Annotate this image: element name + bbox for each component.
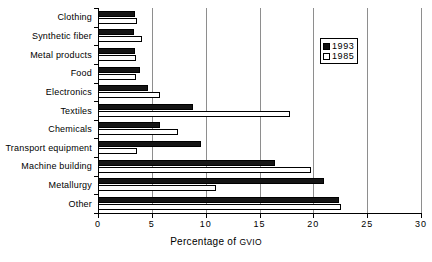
- category-label: Clothing: [0, 12, 92, 22]
- category-label: Chemicals: [0, 124, 92, 134]
- category-label: Textiles: [0, 106, 92, 116]
- bar-chart: Clothing Synthetic fiber Metal products …: [0, 0, 432, 262]
- x-axis-tick-30: [421, 214, 422, 218]
- x-axis-tick-20: [313, 214, 314, 218]
- bar-1985: [98, 18, 137, 24]
- category-label: Food: [0, 68, 92, 78]
- bar-1985: [98, 92, 160, 98]
- bar-1985: [98, 129, 178, 135]
- bar-group: [98, 138, 421, 157]
- x-axis-title-acronym: GVIO: [239, 237, 261, 247]
- category-label: Synthetic fiber: [0, 31, 92, 41]
- bar-1993: [98, 29, 134, 35]
- bar-1985: [98, 55, 136, 61]
- bar-1985: [98, 204, 341, 210]
- bar-1985: [98, 148, 137, 154]
- x-axis-tick-label: 0: [95, 219, 101, 230]
- x-axis-tick-label: 25: [361, 219, 373, 230]
- bar-1985: [98, 74, 136, 80]
- category-label: Metal products: [0, 50, 92, 60]
- bar-group: [98, 45, 421, 64]
- bar-1985: [98, 167, 311, 173]
- x-axis-title-main: Percentage of: [170, 236, 239, 247]
- legend-label: 1993: [332, 41, 354, 51]
- x-axis-tick-label: 30: [415, 219, 427, 230]
- legend-swatch-filled-square-icon: [323, 43, 330, 50]
- bar-rows: [98, 8, 421, 213]
- x-axis-tick-0: [98, 214, 99, 218]
- bar-1993: [98, 141, 201, 147]
- bar-1985: [98, 185, 216, 191]
- legend-swatch-hollow-square-icon: [323, 53, 330, 60]
- legend: 1993 1985: [320, 38, 358, 64]
- bar-1985: [98, 111, 290, 117]
- x-axis-tick-25: [367, 214, 368, 218]
- bar-group: [98, 83, 421, 102]
- category-label: Metallurgy: [0, 180, 92, 190]
- bar-group: [98, 8, 421, 27]
- bar-group: [98, 120, 421, 139]
- gridline-30: [421, 8, 422, 213]
- bar-1993: [98, 160, 275, 166]
- bar-group: [98, 64, 421, 83]
- bar-group: [98, 27, 421, 46]
- bar-1985: [98, 36, 142, 42]
- x-axis-tick-15: [260, 214, 261, 218]
- bar-1993: [98, 11, 135, 17]
- legend-label: 1985: [332, 51, 354, 61]
- category-label: Machine building: [0, 161, 92, 171]
- x-axis-tick-5: [152, 214, 153, 218]
- bar-1993: [98, 104, 193, 110]
- bar-group: [98, 194, 421, 213]
- x-axis-tick-label: 15: [253, 219, 265, 230]
- y-axis-labels: Clothing Synthetic fiber Metal products …: [0, 8, 94, 213]
- legend-entry-1993: 1993: [323, 41, 354, 51]
- x-axis-tick-label: 10: [200, 219, 212, 230]
- bar-1993: [98, 178, 324, 184]
- bar-1993: [98, 85, 148, 91]
- legend-entry-1985: 1985: [323, 51, 354, 61]
- bar-group: [98, 157, 421, 176]
- x-axis-title: Percentage of GVIO: [0, 236, 432, 247]
- bar-group: [98, 101, 421, 120]
- bar-1993: [98, 48, 135, 54]
- bar-1993: [98, 122, 160, 128]
- x-axis-tick-label: 5: [149, 219, 155, 230]
- x-axis-tick-10: [206, 214, 207, 218]
- category-label: Transport equipment: [0, 143, 92, 153]
- plot-area: [98, 8, 421, 213]
- category-label: Electronics: [0, 87, 92, 97]
- category-label: Other: [0, 199, 92, 209]
- bar-group: [98, 176, 421, 195]
- x-axis-tick-label: 20: [307, 219, 319, 230]
- bar-1993: [98, 197, 339, 203]
- bar-1993: [98, 67, 140, 73]
